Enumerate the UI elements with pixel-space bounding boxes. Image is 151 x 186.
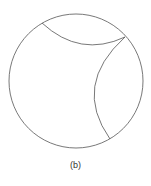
figure-label: (b) — [0, 160, 151, 170]
circle-diagram — [0, 0, 151, 186]
top-arc — [42, 23, 125, 45]
right-arc — [94, 37, 125, 139]
outer-circle — [9, 14, 143, 148]
